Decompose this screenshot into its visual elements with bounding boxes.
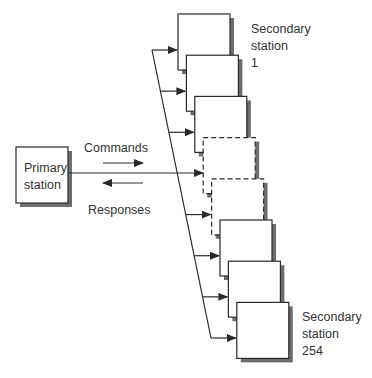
primary-station-label-line2: station	[24, 178, 61, 192]
secondary-first-line2: station	[251, 39, 288, 53]
secondary-last-line2: station	[302, 327, 339, 341]
secondary-last-line1: Secondary	[302, 310, 363, 324]
secondary-first-line3: 1	[251, 56, 258, 70]
secondary-station-stack	[178, 14, 293, 362]
commands-label: Commands	[84, 141, 148, 155]
station-box	[237, 302, 289, 358]
primary-station: Primary station	[16, 147, 72, 207]
polling-diagram: Primary station Commands Responses Secon…	[0, 0, 372, 378]
secondary-last-line3: 254	[302, 344, 323, 358]
responses-label: Responses	[88, 203, 151, 217]
secondary-station-8	[237, 302, 293, 362]
primary-station-label-line1: Primary	[24, 161, 68, 175]
primary-station-box	[16, 147, 68, 203]
secondary-station-254-label: Secondary station 254	[302, 310, 363, 358]
secondary-first-line1: Secondary	[251, 22, 312, 36]
secondary-station-1-label: Secondary station 1	[251, 22, 312, 70]
